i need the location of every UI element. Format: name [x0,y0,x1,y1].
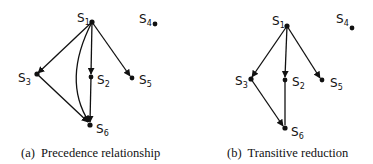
edge-s1-s3 [38,22,92,73]
figure-b-edges [251,26,320,126]
diagram-canvas: S1 S2 S3 S4 S5 S6 (a) Precedence relatio… [0,0,373,164]
edge-s3-s6 [251,79,283,126]
node-s2 [283,78,288,83]
caption-b: (b) Transitive reduction [227,146,349,160]
node-s2 [89,75,94,80]
node-s3 [34,71,39,76]
node-s6 [87,122,92,127]
figure-b-nodes [248,23,354,130]
label-s5: S5 [330,76,343,92]
node-s1 [284,23,289,28]
node-s3 [248,76,253,81]
edge-s1-s3 [252,26,287,77]
edge-s1-s6-curved [76,22,92,122]
label-s2: S2 [97,73,110,89]
label-s2: S2 [292,75,305,91]
label-s1: S1 [77,11,90,27]
node-s1 [89,19,94,24]
node-s4 [350,26,355,31]
edge-s3-s6 [37,74,88,122]
edge-s1-s2 [285,26,287,77]
figure-a-precedence-relationship: S1 S2 S3 S4 S5 S6 (a) Precedence relatio… [18,11,160,160]
node-s5 [130,76,135,81]
edge-s1-s5 [92,22,130,76]
caption-a: (a) Precedence relationship [21,146,160,160]
node-s5 [320,78,325,83]
edge-s1-s2 [91,22,92,74]
node-s4 [153,22,158,27]
label-s3: S3 [18,71,31,87]
figure-b-transitive-reduction: S1 S2 S3 S4 S5 S6 (b) Transitive reducti… [227,12,354,160]
label-s6: S6 [291,125,304,141]
label-s6: S6 [96,122,109,138]
label-s5: S5 [139,73,152,89]
edge-s1-s5 [287,26,320,78]
edge-s2-s6 [90,77,91,122]
node-s6 [282,125,287,130]
label-s4: S4 [139,12,152,28]
label-s1: S1 [272,14,285,30]
label-s4: S4 [336,12,349,28]
figure-a-edges [37,22,130,122]
label-s3: S3 [235,74,248,90]
